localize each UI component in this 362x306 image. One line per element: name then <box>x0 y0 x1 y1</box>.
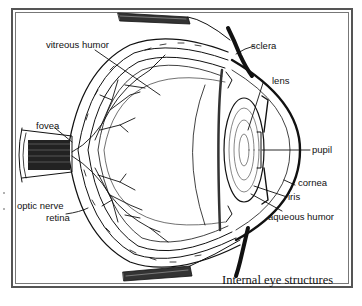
label-lens: lens <box>272 76 289 86</box>
leader-lines <box>55 46 310 214</box>
label-retina: retina <box>46 213 70 223</box>
leader-aqueous-humor <box>251 194 282 211</box>
label-pupil: pupil <box>312 145 332 155</box>
label-aqueous-humor: aqueous humor <box>268 212 334 222</box>
label-fovea: fovea <box>36 121 59 131</box>
lens <box>224 98 264 202</box>
label-optic-nerve: optic nerve <box>17 201 63 211</box>
eyeball-wall <box>68 39 240 267</box>
vitreous-boundary <box>104 78 225 225</box>
diagram-caption: Internal eye structures <box>222 274 333 287</box>
ciliary-body <box>218 70 232 230</box>
optic-nerve <box>19 128 72 182</box>
label-iris: iris <box>288 192 300 202</box>
ora-serrata <box>193 85 206 225</box>
leader-iris <box>254 186 287 197</box>
label-sclera: sclera <box>251 41 276 51</box>
label-vitreous-humor: vitreous humor <box>46 40 109 50</box>
superior-muscle <box>118 13 230 40</box>
label-cornea: cornea <box>298 178 327 188</box>
